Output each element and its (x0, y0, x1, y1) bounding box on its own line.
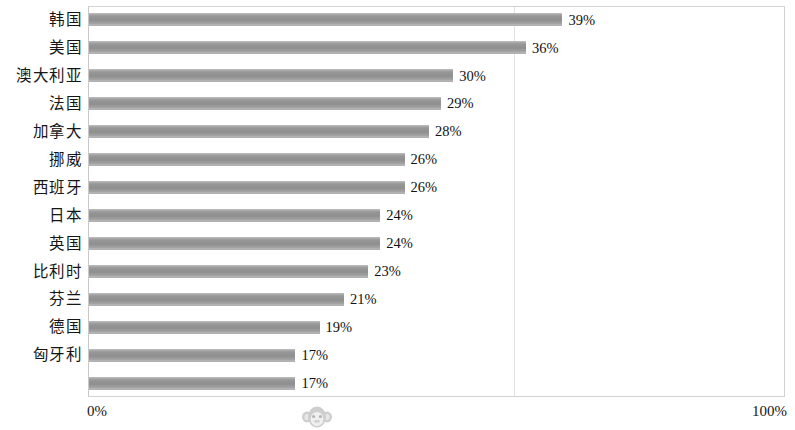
bar-and-value: 24% (89, 229, 413, 257)
bar (89, 41, 526, 54)
bar-value-label: 26% (411, 152, 438, 167)
bar (89, 153, 405, 166)
bar-and-value: 17% (89, 369, 328, 397)
bar-and-value: 28% (89, 118, 461, 146)
bar (89, 237, 380, 250)
bar-category-label: 匈牙利 (0, 347, 82, 363)
bar-row: 挪威26% (0, 146, 795, 174)
bar-category-label: 德国 (0, 319, 82, 335)
bar-and-value: 23% (89, 257, 401, 285)
bar (89, 377, 295, 390)
bar-value-label: 26% (411, 180, 438, 195)
bar-and-value: 29% (89, 90, 474, 118)
bar (89, 265, 368, 278)
bar-category-label: 韩国 (0, 12, 82, 28)
bar-value-label: 23% (374, 264, 401, 279)
x-axis-max-label: 100% (752, 403, 787, 420)
bar-category-label: 美国 (0, 40, 82, 56)
bar (89, 97, 441, 110)
bar-row: 英国24% (0, 229, 795, 257)
bar-and-value: 19% (89, 313, 352, 341)
bar-category-label: 英国 (0, 236, 82, 252)
monkey-face-icon (300, 405, 334, 429)
bar-value-label: 39% (568, 13, 595, 28)
bar-value-label: 30% (459, 69, 486, 84)
bar-value-label: 17% (301, 376, 328, 391)
bar (89, 349, 295, 362)
bar-row: 德国19% (0, 313, 795, 341)
bar-category-label: 比利时 (0, 264, 82, 280)
bar-category-label: 芬兰 (0, 291, 82, 307)
bar-row: 比利时23% (0, 257, 795, 285)
bar-and-value: 26% (89, 146, 437, 174)
bar (89, 125, 429, 138)
bar-category-label: 日本 (0, 208, 82, 224)
bar-category-label: 西班牙 (0, 180, 82, 196)
bar-category-label: 澳大利亚 (0, 68, 82, 84)
bar-row: 日本24% (0, 202, 795, 230)
bar (89, 209, 380, 222)
bar-value-label: 24% (386, 236, 413, 251)
bar-row: 澳大利亚30% (0, 62, 795, 90)
bar-value-label: 28% (435, 124, 462, 139)
bar-value-label: 21% (350, 292, 377, 307)
bar-and-value: 17% (89, 341, 328, 369)
x-axis-min-label: 0% (87, 403, 107, 420)
bar (89, 321, 320, 334)
bar-and-value: 21% (89, 285, 376, 313)
bar-row: 韩国39% (0, 6, 795, 34)
bar-value-label: 29% (447, 96, 474, 111)
bar-value-label: 24% (386, 208, 413, 223)
bar-category-label: 加拿大 (0, 124, 82, 140)
bar (89, 293, 344, 306)
bar (89, 69, 453, 82)
bar-row: 匈牙利17% (0, 341, 795, 369)
bar-value-label: 17% (301, 348, 328, 363)
bar-row: 西班牙26% (0, 174, 795, 202)
bar-row: 美国36% (0, 34, 795, 62)
bar-and-value: 26% (89, 174, 437, 202)
bar-category-label: 挪威 (0, 152, 82, 168)
bar-category-label: 法国 (0, 96, 82, 112)
bar-value-label: 19% (326, 320, 353, 335)
bar-row: 加拿大28% (0, 118, 795, 146)
bar-and-value: 39% (89, 6, 595, 34)
bar (89, 181, 405, 194)
bar-and-value: 24% (89, 202, 413, 230)
bar-row: 法国29% (0, 90, 795, 118)
bar-row: 17% (0, 369, 795, 397)
bar-rows-container: 韩国39%美国36%澳大利亚30%法国29%加拿大28%挪威26%西班牙26%日… (0, 6, 795, 397)
bar (89, 13, 562, 26)
bar-chart: 韩国39%美国36%澳大利亚30%法国29%加拿大28%挪威26%西班牙26%日… (0, 0, 795, 430)
bar-and-value: 36% (89, 34, 559, 62)
bar-and-value: 30% (89, 62, 486, 90)
bar-row: 芬兰21% (0, 285, 795, 313)
bar-value-label: 36% (532, 41, 559, 56)
